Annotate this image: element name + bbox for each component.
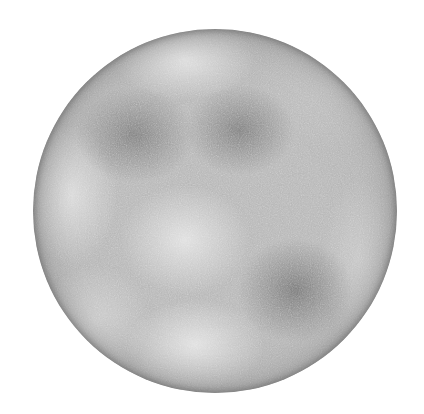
image-canvas xyxy=(0,0,424,414)
grayscale-sphere xyxy=(33,29,397,393)
sphere-edge-shading xyxy=(33,29,397,393)
